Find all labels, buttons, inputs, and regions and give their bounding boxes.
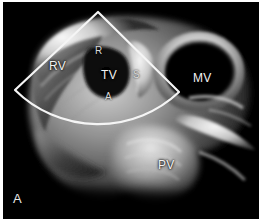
ultrasound-sector-outline [3, 2, 259, 219]
figure-panel: RV R TV S A MV PV A [0, 0, 263, 222]
specimen-photograph: RV R TV S A MV PV A [3, 2, 259, 219]
